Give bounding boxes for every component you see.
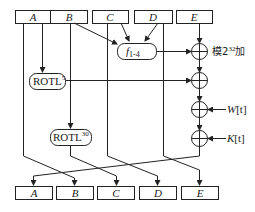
input-registers: A B C D E: [16, 11, 213, 24]
output-registers: A B C D E: [16, 187, 219, 200]
adder-1: [192, 44, 208, 60]
input-register-c: C: [93, 11, 129, 24]
output-register-c-label: C: [112, 187, 120, 199]
adder-4: [192, 131, 208, 147]
output-register-b: B: [57, 187, 94, 200]
rotl30-block: ROTL30: [51, 130, 92, 146]
output-register-d-label: D: [153, 187, 162, 199]
rotl30-to-c-wire: [71, 146, 117, 185]
input-register-b-label: B: [66, 11, 73, 23]
rotl5-label: ROTL5: [33, 74, 66, 87]
output-register-d: D: [140, 187, 177, 200]
d-to-f-wire: [145, 23, 158, 41]
rotl5-block: ROTL5: [30, 74, 66, 90]
c-to-f-wire: [121, 23, 129, 41]
input-register-a: A: [16, 11, 51, 24]
input-register-d-label: D: [148, 11, 157, 23]
adder-3: [192, 102, 208, 118]
output-register-b-label: B: [72, 187, 79, 199]
w-input-label: W[t]: [227, 103, 247, 115]
modular-addition-label: 模232加: [212, 45, 245, 57]
output-register-e: E: [182, 187, 219, 200]
input-register-e-label: E: [190, 11, 198, 23]
output-register-a: A: [16, 187, 53, 200]
f-function-block: f1-4: [118, 44, 157, 60]
input-register-e: E: [177, 11, 213, 24]
a-to-b-wire: [24, 23, 75, 185]
input-register-b: B: [51, 11, 88, 24]
sha1-round-diagram: A B C D E A B C: [0, 0, 255, 212]
input-register-d: D: [135, 11, 173, 24]
output-register-c: C: [98, 187, 135, 200]
output-register-a-label: A: [30, 187, 38, 199]
input-register-a-label: A: [29, 11, 37, 23]
input-register-c-label: C: [106, 11, 114, 23]
adder-2: [192, 73, 208, 89]
output-register-e-label: E: [196, 187, 204, 199]
b-to-f-wire: [74, 23, 117, 44]
k-input-label: K[t]: [226, 132, 245, 144]
